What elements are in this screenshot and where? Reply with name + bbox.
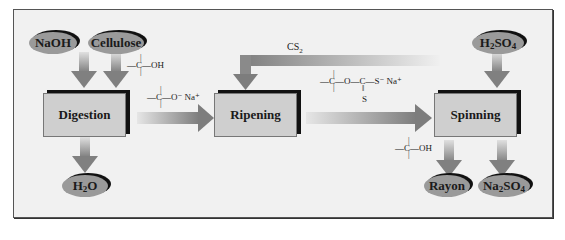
h2so4-label: H2SO4 — [480, 35, 516, 51]
rayon-output-oval: Rayon — [424, 175, 470, 197]
ripening-label: Ripening — [230, 107, 281, 123]
arrow-spinning-to-rayon — [436, 140, 462, 177]
cellulose-input-oval: Cellulose — [88, 32, 144, 54]
rayon-label: Rayon — [429, 178, 465, 194]
arrow-digestion-to-h2o — [72, 137, 98, 173]
h2so4-input-oval: H2SO4 — [472, 32, 524, 54]
arrow-naoh-to-digestion — [71, 52, 97, 88]
h2o-output-oval: H2O — [62, 175, 108, 197]
digestion-step-box: Digestion — [43, 93, 126, 137]
spinning-step-box: Spinning — [434, 93, 517, 137]
na2so4-label: Na2SO4 — [483, 178, 525, 194]
arrow-digestion-to-ripening — [137, 104, 214, 132]
cs2-reagent-label: CS2 — [287, 41, 303, 55]
ripening-step-box: Ripening — [214, 93, 297, 137]
arrow-spinning-to-na2so4 — [489, 140, 515, 177]
cellulose-label: Cellulose — [91, 35, 142, 51]
alkoxide-structure: | —C—O⁻ Na⁺ | — [147, 92, 200, 102]
naoh-input-oval: NaOH — [29, 32, 77, 54]
digestion-label: Digestion — [59, 107, 111, 123]
xanthate-structure: | —C—O—C—S⁻ Na⁺ | ‖ S — [320, 76, 402, 86]
spinning-label: Spinning — [451, 107, 501, 123]
arrow-ripening-to-spinning — [306, 104, 432, 132]
arrow-h2so4-to-spinning — [484, 52, 510, 88]
na2so4-output-oval: Na2SO4 — [478, 175, 530, 197]
h2o-label: H2O — [73, 178, 98, 194]
arrow-cellulose-to-digestion — [103, 52, 129, 88]
naoh-label: NaOH — [35, 35, 71, 51]
cellulose-oh-structure: | —C—OH | — [127, 60, 164, 70]
rayon-oh-structure: | —C—OH | — [395, 143, 432, 153]
